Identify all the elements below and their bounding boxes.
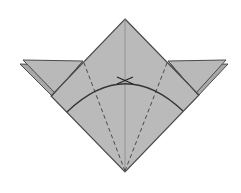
- origami-diagram: [0, 0, 241, 193]
